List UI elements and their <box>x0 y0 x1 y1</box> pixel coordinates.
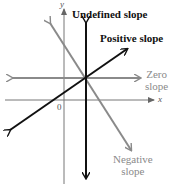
zero-slope-label-line1: Zero <box>145 68 168 80</box>
x-axis-label: x <box>158 95 162 104</box>
undefined-slope-label: Undefined slope <box>72 9 148 20</box>
origin-label: 0 <box>57 103 62 112</box>
negative-slope-label: Negative slope <box>113 153 153 177</box>
zero-slope-label-line2: slope <box>145 80 168 92</box>
zero-slope-label: Zero slope <box>145 68 168 92</box>
positive-slope-label: Positive slope <box>100 33 163 44</box>
y-axis-label: y <box>60 0 64 9</box>
negative-slope-label-line2: slope <box>113 165 153 177</box>
negative-slope-label-line1: Negative <box>113 153 153 165</box>
